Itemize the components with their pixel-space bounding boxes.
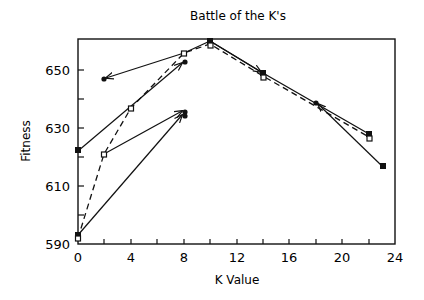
svg-text:12: 12 [229,250,246,265]
x-axis-label: K Value [215,273,260,287]
filled-square-markers [75,38,386,238]
chart-title: Battle of the K's [190,9,286,23]
svg-text:8: 8 [180,250,188,265]
svg-text:610: 610 [45,179,70,194]
chart-canvas: Battle of the K's 0 4 8 12 16 20 24 590 [0,0,424,300]
svg-text:4: 4 [127,250,135,265]
svg-text:590: 590 [45,237,70,252]
solid-segment [184,41,210,53]
x-tick-labels: 0 4 8 12 16 20 24 [74,250,403,265]
y-axis-ticks [78,70,84,215]
svg-text:16: 16 [281,250,298,265]
svg-text:24: 24 [387,250,404,265]
y-axis-label: Fitness [19,120,33,162]
svg-text:20: 20 [334,250,351,265]
svg-text:650: 650 [45,63,70,78]
svg-text:630: 630 [45,121,70,136]
y-tick-labels: 590 610 630 650 [45,63,70,252]
open-square-markers [76,43,373,241]
x-axis-ticks [104,239,369,244]
arrows [78,41,382,235]
svg-text:0: 0 [74,250,82,265]
